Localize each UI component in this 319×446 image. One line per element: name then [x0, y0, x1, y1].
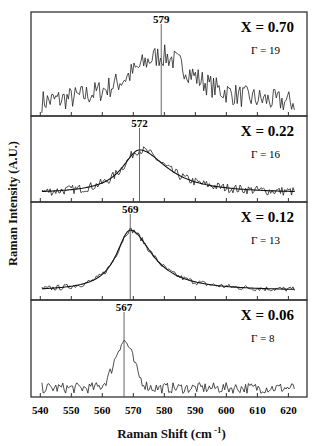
spectrum-panel: 572X = 0.22Γ = 16	[31, 116, 307, 202]
peak-label: 579	[153, 13, 170, 25]
x-tick-label: 570	[125, 404, 142, 416]
raman-spectra-figure: 579X = 0.70Γ = 19572X = 0.22Γ = 16569X =…	[0, 0, 319, 446]
composition-label: X = 0.12	[241, 209, 294, 225]
x-tick-label: 580	[156, 404, 173, 416]
x-tick-label: 620	[280, 404, 297, 416]
peak-label: 569	[122, 203, 139, 215]
spectrum-panel: 579X = 0.70Γ = 19	[31, 12, 307, 116]
x-tick-label: 560	[94, 404, 111, 416]
composition-label: X = 0.06	[241, 307, 295, 323]
x-tick-label: 600	[218, 404, 235, 416]
x-tick-label: 590	[187, 404, 204, 416]
spectrum-panel: 567X = 0.06Γ = 8	[31, 300, 307, 397]
spectrum-panel: 569X = 0.12Γ = 13	[31, 202, 307, 300]
peak-label: 572	[131, 117, 148, 129]
peak-label: 567	[116, 301, 133, 313]
composition-label: X = 0.70	[241, 19, 294, 35]
gamma-label: Γ = 8	[251, 332, 275, 344]
y-axis-label: Raman Intensity (A.U.)	[6, 129, 21, 279]
x-axis-label: Raman Shift (cm -1)	[0, 425, 319, 442]
gamma-label: Γ = 13	[251, 234, 281, 246]
x-tick-label: 540	[32, 404, 49, 416]
gamma-label: Γ = 16	[251, 148, 281, 160]
gamma-label: Γ = 19	[251, 44, 281, 56]
spectrum-line	[42, 340, 295, 393]
composition-label: X = 0.22	[241, 123, 294, 139]
x-tick-label: 610	[249, 404, 266, 416]
x-tick-label: 550	[63, 404, 80, 416]
